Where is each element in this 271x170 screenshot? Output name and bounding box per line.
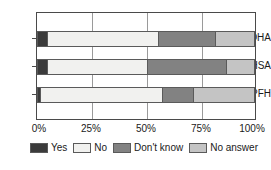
legend-label-yes: Yes [51,142,67,153]
chart-legend: Yes No Don't know No answer [30,140,258,155]
bar-row-gpfh [37,87,255,103]
bar-segment-dont-know [148,59,226,75]
stacked-bar-chart: DHA FHSA GPFH [0,0,271,170]
legend-label-no-answer: No answer [210,142,258,153]
bar-segment-no-answer [194,87,255,103]
stacked-bar-gpfh [37,87,255,103]
legend-item-dont-know: Don't know [113,142,183,153]
x-axis-label-25: 25% [81,123,101,134]
legend-label-no: No [94,142,107,153]
plot-area [36,12,256,120]
x-axis-label-0: 0% [32,123,46,134]
bar-segment-no [48,59,148,75]
legend-swatch-no-answer-icon [189,143,207,153]
x-axis-label-100: 100% [239,123,265,134]
legend-item-no: No [73,142,107,153]
bar-row-fhsa [37,59,255,75]
x-axis-label-50: 50% [136,123,156,134]
bar-segment-dont-know [159,31,216,47]
stacked-bar-fhsa [37,59,255,75]
bar-segment-yes [37,59,48,75]
bar-segment-no [48,31,159,47]
bar-segment-yes [37,31,48,47]
legend-item-yes: Yes [30,142,67,153]
legend-item-no-answer: No answer [189,142,258,153]
bar-row-dha [37,31,255,47]
legend-label-dont-know: Don't know [134,142,183,153]
bar-segment-no-answer [216,31,255,47]
legend-swatch-dont-know-icon [113,143,131,153]
stacked-bar-dha [37,31,255,47]
legend-swatch-yes-icon [30,143,48,153]
bar-segment-no [41,87,163,103]
bar-segment-no-answer [227,59,255,75]
x-axis-label-75: 75% [191,123,211,134]
legend-swatch-no-icon [73,143,91,153]
bar-segment-dont-know [163,87,194,103]
